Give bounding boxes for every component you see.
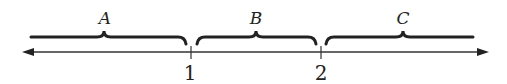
- brace-c: [326, 31, 473, 44]
- tick-label-2: 2: [315, 61, 328, 84]
- brace-b: [197, 31, 316, 44]
- region-label-a: A: [97, 8, 111, 28]
- right-arrow-icon: [477, 48, 489, 56]
- region-label-c: C: [396, 8, 409, 28]
- region-label-b: B: [249, 8, 263, 28]
- number-line-diagram: A B C 1 2: [0, 0, 507, 84]
- left-arrow-icon: [22, 48, 34, 56]
- tick-label-1: 1: [184, 61, 197, 84]
- brace-a: [31, 31, 186, 44]
